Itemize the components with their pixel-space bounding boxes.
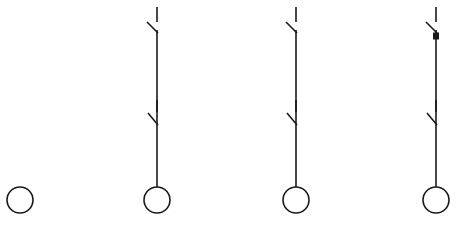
upper-switch-blade [286, 22, 297, 33]
lamp-circle [283, 187, 309, 213]
upper-switch-blade [426, 22, 437, 33]
figure-2 [144, 7, 170, 213]
upper-switch-blade [147, 22, 158, 33]
lamp-circle [423, 187, 449, 213]
figure-4 [423, 7, 449, 213]
schematic-drawing [0, 0, 460, 226]
figure-1 [7, 187, 33, 213]
terminal-dot [433, 33, 439, 40]
lamp-circle [144, 187, 170, 213]
schematic-canvas [0, 0, 460, 226]
lamp-circle [7, 187, 33, 213]
figure-3 [283, 7, 309, 213]
